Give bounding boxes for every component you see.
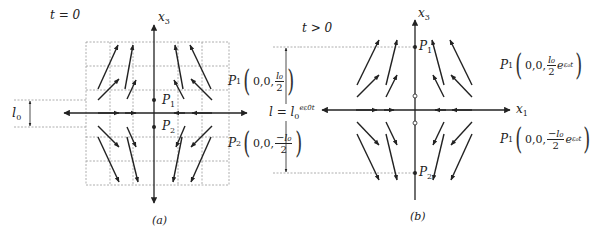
p1-coordinates-a: P1 ( 0,0, l₀2 ) [228,66,297,96]
upper-coordinates-b: P1 ( 0,0, l₀2 eε₀t ) [500,50,585,80]
caption-a: (a) [152,214,167,227]
p1-initial-marker-b [413,94,417,98]
time-label-a: t = 0 [50,8,80,22]
p1-label-b: P1 [419,39,432,55]
x3-axis-label-a: x3 [158,10,170,26]
time-label-b: t > 0 [302,21,332,35]
panel-a [14,25,300,203]
panel-b [300,20,510,200]
x1-axis-label-b: x1 [516,102,528,118]
p1-point-a [152,98,156,102]
p2-initial-marker-b [413,121,417,125]
x3-axis-label-b: x3 [418,6,430,22]
p1-label-a: P1 [162,93,175,109]
lower-coordinates-b: P1 ( 0,0, −l₀2 eε₀t ) [500,124,592,154]
p1-point-b [413,45,417,49]
p2-label-b: P2 [419,165,432,181]
caption-b: (b) [410,210,426,223]
p2-coordinates-a: P2 ( 0,0, −l₀2 ) [228,128,305,158]
p2-point-b [413,171,417,175]
p2-label-a: P2 [162,119,175,135]
p2-point-a [152,125,156,129]
l0-dimension-label: l0 [12,105,21,122]
length-label: l = l0eε0t [268,104,316,121]
